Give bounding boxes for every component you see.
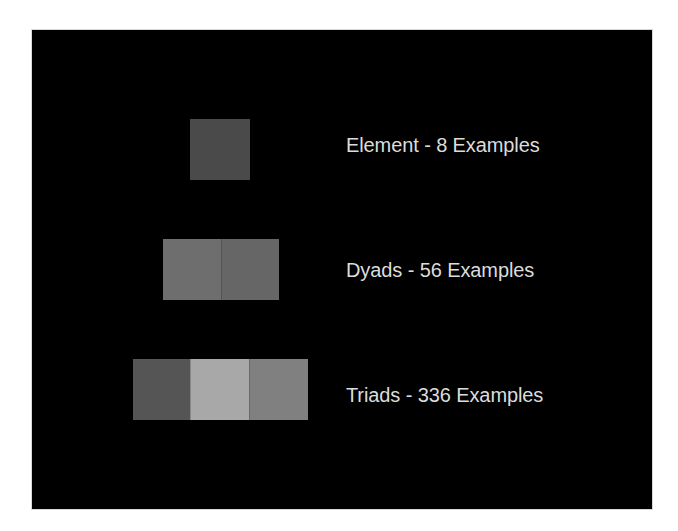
element-swatch-group bbox=[190, 119, 250, 180]
element-swatch bbox=[190, 119, 250, 180]
triad-swatch-2 bbox=[190, 359, 249, 420]
dyads-label: Dyads - 56 Examples bbox=[346, 259, 534, 281]
triad-swatch-3 bbox=[249, 359, 308, 420]
dyad-swatch-2 bbox=[221, 239, 279, 300]
dyad-swatch-1 bbox=[163, 239, 221, 300]
slide-panel: Element - 8 Examples Dyads - 56 Examples… bbox=[32, 30, 652, 509]
dyad-swatch-group bbox=[163, 239, 279, 300]
triad-swatch-group bbox=[133, 359, 308, 420]
triads-label: Triads - 336 Examples bbox=[346, 384, 543, 406]
element-label: Element - 8 Examples bbox=[346, 134, 540, 156]
triad-swatch-1 bbox=[133, 359, 190, 420]
